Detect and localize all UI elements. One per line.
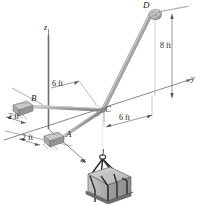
dimension-label-8ft: 8 ft: [160, 42, 171, 50]
crate: [86, 167, 133, 204]
member-BC: [31, 105, 103, 110]
support-bracket-A: [43, 132, 64, 150]
diagram-canvas: [0, 0, 200, 204]
dimension-label-6ft-upper: 6 ft: [52, 80, 63, 88]
dimension-6ft-lower: [106, 96, 152, 127]
dimension-label-2ft-lower: 2 ft: [22, 134, 33, 142]
pulley-fitting-D: [149, 6, 188, 20]
vertical-post-C: [102, 110, 103, 150]
point-label-a: A: [66, 130, 72, 139]
point-label-b: B: [31, 94, 37, 103]
point-label-d: D: [143, 1, 150, 10]
point-label-c: C: [105, 105, 111, 114]
statics-figure: z y x B A C D 8 ft 6 ft 6 ft 2 ft 2 ft: [0, 0, 200, 204]
dimension-label-6ft-lower: 6 ft: [119, 114, 130, 122]
axis-label-y: y: [191, 75, 195, 83]
boom-member-CD: [102, 14, 151, 111]
axis-label-z: z: [44, 24, 47, 32]
axis-label-x: x: [82, 157, 86, 165]
dimension-label-2ft-upper: 2 ft: [8, 113, 19, 121]
